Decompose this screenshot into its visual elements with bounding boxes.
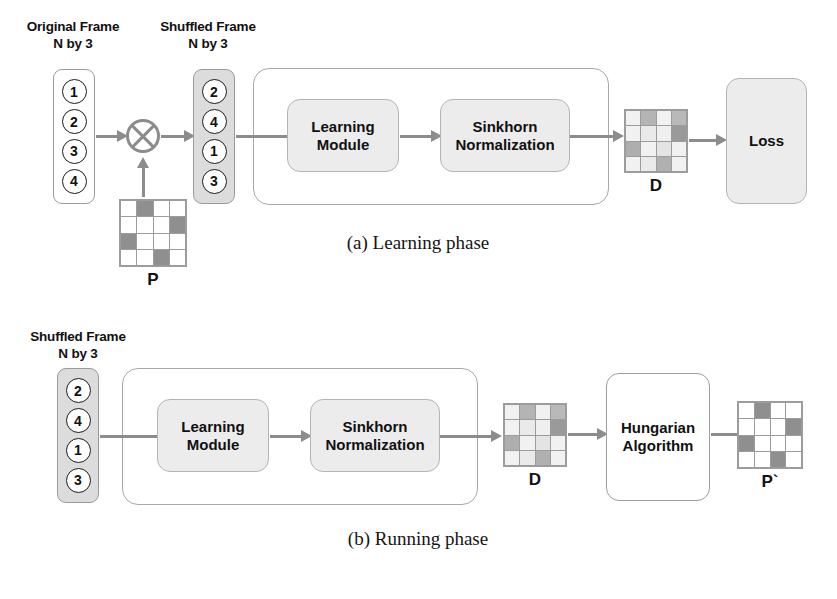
arrow-sinkhorn-to-d-running <box>440 430 502 443</box>
matrix-cell <box>755 436 770 451</box>
matrix-cell <box>786 436 801 451</box>
loss-block: Loss <box>726 78 807 204</box>
frame-node: 2 <box>66 378 91 403</box>
matrix-cell <box>520 436 534 450</box>
matrix-cell <box>626 142 640 156</box>
header-shuffled-frame-line2: N by 3 <box>143 35 273 52</box>
caption-learning-phase: (a) Learning phase <box>268 232 568 254</box>
panel-running-phase: Shuffled Frame N by 3 2 4 1 3 Learning M… <box>0 300 837 599</box>
matrix-cell <box>137 250 152 265</box>
shuffled-frame-column: 2 4 1 3 <box>193 69 235 204</box>
header-original-frame: Original Frame N by 3 <box>8 18 138 52</box>
circle-times-icon <box>126 119 160 153</box>
matrix-cell <box>154 201 169 216</box>
matrix-cell <box>505 451 519 465</box>
matrix-cell <box>771 419 786 434</box>
matrix-cell <box>505 405 519 419</box>
predicted-permutation-matrix-label: P` <box>737 472 803 492</box>
caption-running-phase: (b) Running phase <box>268 528 568 550</box>
matrix-cell <box>755 452 770 467</box>
matrix-cell <box>505 420 519 434</box>
matrix-cell <box>536 420 550 434</box>
matrix-cell <box>121 250 136 265</box>
matrix-cell <box>505 436 519 450</box>
matrix-cell <box>771 452 786 467</box>
matrix-cell <box>786 419 801 434</box>
matrix-cell <box>520 451 534 465</box>
learning-module-block-running: Learning Module <box>157 399 269 472</box>
frame-node: 4 <box>62 169 87 194</box>
header-shuffled-frame-running-line2: N by 3 <box>8 345 148 362</box>
arrow-d-to-hungarian <box>568 428 608 441</box>
matrix-cell <box>657 111 671 125</box>
doubly-stochastic-matrix-d-running <box>503 403 567 467</box>
matrix-cell <box>137 234 152 249</box>
matrix-cell <box>121 234 136 249</box>
frame-node: 3 <box>202 169 227 194</box>
matrix-cell <box>170 250 185 265</box>
permutation-matrix-p <box>119 199 187 267</box>
header-shuffled-frame-running-line1: Shuffled Frame <box>30 329 125 344</box>
sinkhorn-normalization-block-running: Sinkhorn Normalization <box>310 399 440 472</box>
arrow-learning-to-sinkhorn <box>400 130 442 143</box>
matrix-cell <box>771 403 786 418</box>
matrix-cell <box>672 157 686 171</box>
sinkhorn-normalization-label: Sinkhorn Normalization <box>455 118 554 154</box>
frame-node: 1 <box>202 139 227 164</box>
matrix-cell <box>739 436 754 451</box>
frame-node: 1 <box>66 438 91 463</box>
matrix-cell <box>657 142 671 156</box>
matrix-cell <box>626 111 640 125</box>
doubly-stochastic-matrix-d-label-running: D <box>503 470 567 490</box>
matrix-cell <box>755 403 770 418</box>
panel-learning-phase: Original Frame N by 3 Shuffled Frame N b… <box>0 0 837 300</box>
matrix-cell <box>536 405 550 419</box>
matrix-cell <box>551 405 565 419</box>
matrix-cell <box>170 217 185 232</box>
frame-node: 2 <box>202 79 227 104</box>
doubly-stochastic-matrix-d-label: D <box>624 176 688 196</box>
header-shuffled-frame-line1: Shuffled Frame <box>160 19 255 34</box>
matrix-cell <box>520 420 534 434</box>
matrix-cell <box>641 126 655 140</box>
predicted-permutation-matrix <box>737 401 803 469</box>
frame-node: 4 <box>66 408 91 433</box>
matrix-cell <box>137 201 152 216</box>
arrow-permutation-to-operator <box>137 157 150 197</box>
matrix-cell <box>551 420 565 434</box>
matrix-cell <box>121 201 136 216</box>
matrix-cell <box>551 436 565 450</box>
matrix-cell <box>170 234 185 249</box>
learning-module-label-running: Learning Module <box>181 418 244 454</box>
matrix-cell <box>626 157 640 171</box>
matrix-cell <box>154 250 169 265</box>
sinkhorn-normalization-block: Sinkhorn Normalization <box>440 99 570 172</box>
matrix-cell <box>641 111 655 125</box>
matrix-cell <box>551 451 565 465</box>
matrix-cell <box>755 419 770 434</box>
matrix-cell <box>739 403 754 418</box>
frame-node: 4 <box>202 109 227 134</box>
hungarian-algorithm-label: Hungarian Algorithm <box>621 419 695 455</box>
matrix-cell <box>739 419 754 434</box>
matrix-cell <box>121 217 136 232</box>
matrix-cell <box>672 142 686 156</box>
matrix-cell <box>771 436 786 451</box>
header-original-frame-line1: Original Frame <box>27 19 119 34</box>
doubly-stochastic-matrix-d <box>624 109 688 173</box>
frame-node: 2 <box>62 109 87 134</box>
matrix-cell <box>641 157 655 171</box>
matrix-cell <box>657 157 671 171</box>
matrix-cell <box>520 405 534 419</box>
frame-node: 3 <box>62 139 87 164</box>
matrix-cell <box>137 217 152 232</box>
matrix-cell <box>672 111 686 125</box>
header-shuffled-frame: Shuffled Frame N by 3 <box>143 18 273 52</box>
matrix-cell <box>672 126 686 140</box>
matrix-cell <box>786 452 801 467</box>
arrow-operator-to-shuffled <box>161 130 195 143</box>
shuffled-frame-column-running: 2 4 1 3 <box>57 368 99 503</box>
frame-node: 3 <box>66 468 91 493</box>
frame-node: 1 <box>62 79 87 104</box>
matrix-cell <box>170 201 185 216</box>
